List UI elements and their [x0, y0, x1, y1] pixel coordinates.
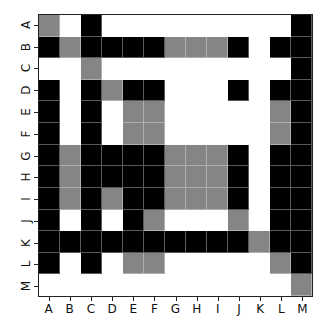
- y-tick: [34, 221, 38, 222]
- heatmap-cell: [249, 101, 270, 123]
- heatmap-cell: [165, 274, 186, 296]
- heatmap-cell: [228, 166, 249, 188]
- heatmap-cell: [60, 145, 81, 167]
- heatmap-cell: [291, 123, 312, 145]
- heatmap-cell: [207, 145, 228, 167]
- heatmap-cell: [249, 253, 270, 275]
- heatmap-cell: [291, 101, 312, 123]
- heatmap-cell: [249, 58, 270, 80]
- heatmap-cell: [249, 15, 270, 37]
- heatmap-cell: [186, 145, 207, 167]
- heatmap-cell: [102, 231, 123, 253]
- heatmap-cell: [270, 58, 291, 80]
- heatmap-cell: [249, 145, 270, 167]
- y-tick-label: L: [18, 256, 34, 272]
- x-tick: [70, 297, 71, 301]
- heatmap-cell: [165, 166, 186, 188]
- heatmap-cell: [270, 274, 291, 296]
- heatmap-cell: [81, 253, 102, 275]
- y-tick: [34, 112, 38, 113]
- heatmap-cell: [165, 37, 186, 59]
- heatmap-cell: [81, 145, 102, 167]
- heatmap-cell: [270, 80, 291, 102]
- heatmap-cell: [102, 274, 123, 296]
- x-tick-label: L: [271, 302, 291, 316]
- heatmap-cell: [39, 15, 60, 37]
- heatmap-cell: [207, 188, 228, 210]
- heatmap-cell: [123, 145, 144, 167]
- heatmap-cell: [60, 15, 81, 37]
- y-tick-label: H: [18, 169, 34, 185]
- heatmap-cell: [123, 101, 144, 123]
- x-tick-label: J: [229, 302, 249, 316]
- heatmap-cell: [39, 253, 60, 275]
- heatmap-cell: [81, 101, 102, 123]
- heatmap-cell: [81, 58, 102, 80]
- heatmap-cell: [144, 145, 165, 167]
- y-tick-label: C: [18, 60, 34, 76]
- x-tick-label: H: [187, 302, 207, 316]
- heatmap-cell: [165, 15, 186, 37]
- heatmap-cell: [228, 210, 249, 232]
- heatmap-cell: [270, 231, 291, 253]
- heatmap-cell: [186, 274, 207, 296]
- x-tick: [154, 297, 155, 301]
- heatmap-cell: [207, 166, 228, 188]
- heatmap-cell: [291, 210, 312, 232]
- heatmap-cell: [123, 58, 144, 80]
- heatmap-cell: [228, 101, 249, 123]
- heatmap-cell: [39, 166, 60, 188]
- heatmap-cell: [123, 37, 144, 59]
- y-tick: [34, 68, 38, 69]
- heatmap-cell: [228, 188, 249, 210]
- heatmap-cell: [228, 274, 249, 296]
- heatmap-cell: [60, 253, 81, 275]
- heatmap-cell: [123, 231, 144, 253]
- heatmap-cell: [144, 210, 165, 232]
- heatmap-cell: [123, 15, 144, 37]
- x-tick-label: C: [81, 302, 101, 316]
- heatmap-cell: [228, 15, 249, 37]
- heatmap-cell: [207, 123, 228, 145]
- heatmap-cell: [249, 166, 270, 188]
- heatmap-cell: [144, 123, 165, 145]
- heatmap-cell: [249, 80, 270, 102]
- x-tick-label: M: [292, 302, 312, 316]
- x-tick: [112, 297, 113, 301]
- heatmap-cell: [39, 231, 60, 253]
- heatmap-cell: [102, 166, 123, 188]
- y-tick-label: G: [18, 148, 34, 164]
- heatmap-cell: [186, 123, 207, 145]
- heatmap-cell: [270, 166, 291, 188]
- heatmap-cell: [144, 101, 165, 123]
- heatmap-cell: [291, 166, 312, 188]
- heatmap-cell: [186, 15, 207, 37]
- x-tick-label: E: [123, 302, 143, 316]
- heatmap-cell: [270, 145, 291, 167]
- heatmap-cell: [291, 15, 312, 37]
- heatmap-cell: [102, 58, 123, 80]
- y-tick: [34, 177, 38, 178]
- heatmap-cell: [81, 15, 102, 37]
- heatmap-cell: [165, 253, 186, 275]
- x-tick-label: D: [102, 302, 122, 316]
- heatmap-cell: [186, 58, 207, 80]
- heatmap-cell: [207, 231, 228, 253]
- heatmap-cell: [186, 231, 207, 253]
- heatmap-cell: [291, 58, 312, 80]
- heatmap-cell: [207, 80, 228, 102]
- heatmap-cell: [123, 274, 144, 296]
- heatmap-cell: [81, 37, 102, 59]
- heatmap-cell: [165, 231, 186, 253]
- heatmap-cell: [228, 37, 249, 59]
- heatmap-cell: [186, 80, 207, 102]
- heatmap-cell: [102, 253, 123, 275]
- heatmap-cell: [144, 58, 165, 80]
- heatmap-cell: [207, 101, 228, 123]
- heatmap-cell: [60, 58, 81, 80]
- x-tick: [133, 297, 134, 301]
- x-tick: [218, 297, 219, 301]
- heatmap-cell: [291, 80, 312, 102]
- heatmap-cell: [165, 188, 186, 210]
- heatmap-grid: [38, 14, 313, 297]
